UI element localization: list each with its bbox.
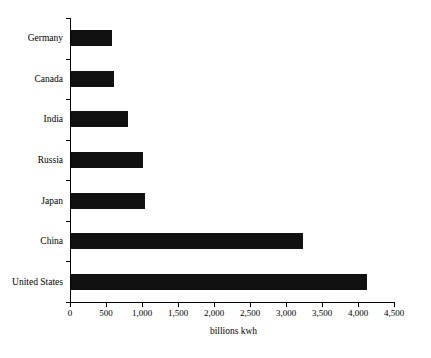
x-axis-tick: [178, 303, 179, 307]
y-axis-tick: [66, 99, 70, 100]
horizontal-bar-chart: GermanyCanadaIndiaRussiaJapanChinaUnited…: [0, 0, 431, 358]
x-axis-tick: [286, 303, 287, 307]
x-axis-tick-label: 3,000: [266, 308, 306, 318]
x-axis-tick-label: 0: [50, 308, 90, 318]
x-axis-tick: [322, 303, 323, 307]
x-axis-tick: [358, 303, 359, 307]
category-label-japan: Japan: [0, 196, 63, 206]
bar-canada: [71, 71, 114, 87]
x-axis-tick: [214, 303, 215, 307]
x-axis-tick-label: 1,000: [122, 308, 162, 318]
category-label-germany: Germany: [0, 33, 63, 43]
y-axis-tick: [66, 221, 70, 222]
bar-united-states: [71, 274, 367, 290]
x-axis-tick-label: 500: [86, 308, 126, 318]
x-axis-tick-label: 4,000: [338, 308, 378, 318]
bar-india: [71, 111, 128, 127]
x-axis-tick: [142, 303, 143, 307]
bar-japan: [71, 193, 145, 209]
x-axis-tick: [70, 303, 71, 307]
x-axis-line: [70, 302, 395, 303]
x-axis-title: billions kwh: [0, 326, 431, 336]
x-axis-tick-label: 1,500: [158, 308, 198, 318]
category-label-india: India: [0, 114, 63, 124]
category-label-russia: Russia: [0, 155, 63, 165]
category-label-united-states: United States: [0, 277, 63, 287]
x-axis-tick: [250, 303, 251, 307]
bar-china: [71, 233, 303, 249]
x-axis-tick-label: 2,500: [230, 308, 270, 318]
y-axis-tick: [66, 140, 70, 141]
x-axis-tick-label: 2,000: [194, 308, 234, 318]
y-axis-tick: [66, 302, 70, 303]
bar-germany: [71, 30, 112, 46]
x-axis-tick: [394, 303, 395, 307]
category-label-china: China: [0, 236, 63, 246]
x-axis-tick: [106, 303, 107, 307]
y-axis-tick: [66, 180, 70, 181]
x-axis-tick-label: 3,500: [302, 308, 342, 318]
x-axis-tick-label: 4,500: [374, 308, 414, 318]
y-axis-tick: [66, 18, 70, 19]
bar-russia: [71, 152, 143, 168]
y-axis-tick: [66, 261, 70, 262]
y-axis-tick: [66, 59, 70, 60]
category-label-canada: Canada: [0, 74, 63, 84]
